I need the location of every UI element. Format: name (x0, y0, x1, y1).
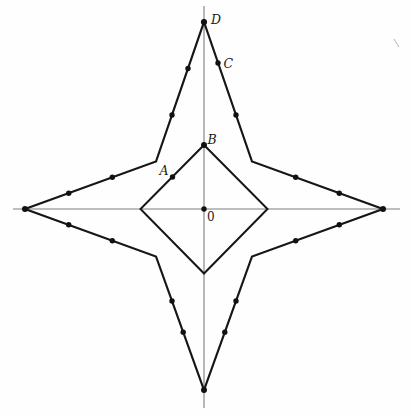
diamond-top-vertex-B-dot (201, 142, 207, 148)
scan-artifact-tick (394, 39, 399, 47)
label-B: B (207, 132, 217, 147)
edge-dot-dot (66, 191, 71, 196)
edge-dot-dot (293, 238, 298, 243)
figure-canvas: DCBA0 (0, 0, 412, 418)
edge-dot-dot (66, 222, 71, 227)
edge-dot-dot (222, 330, 227, 335)
label-A: A (159, 163, 169, 178)
edge-dot-dot (169, 298, 174, 303)
label-0: 0 (207, 210, 215, 224)
edge-dot-dot (337, 222, 342, 227)
star-right-point-dot (380, 206, 386, 212)
edge-dot-dot (185, 66, 190, 71)
point-A-dot (170, 174, 175, 179)
star-diamond-diagram: DCBA0 (0, 0, 412, 418)
star-left-point-dot (22, 206, 28, 212)
edge-dot-dot (181, 330, 186, 335)
edge-dot-C-dot (215, 60, 220, 65)
star-bottom-point-dot (201, 387, 207, 393)
edge-dot-dot (293, 175, 298, 180)
edge-dot-dot (110, 238, 115, 243)
edge-dot-dot (169, 112, 174, 117)
label-D: D (210, 12, 221, 27)
label-C: C (224, 56, 234, 71)
edge-dot-dot (110, 175, 115, 180)
edge-dot-dot (337, 191, 342, 196)
edge-dot-dot (233, 112, 238, 117)
center-O-dot (201, 206, 206, 211)
star-top-point-D-dot (201, 19, 207, 25)
edge-dot-dot (233, 298, 238, 303)
